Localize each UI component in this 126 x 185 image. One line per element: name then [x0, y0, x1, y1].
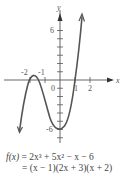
- y-tick-label: -6: [46, 125, 53, 134]
- function-factored-text: = (x − 1)(2x + 3)(x + 2): [22, 163, 112, 173]
- origin-label: 0: [51, 84, 55, 93]
- x-tick-label: 2: [88, 84, 92, 93]
- function-expanded: = 2x³ + 5x² − x − 6: [22, 152, 94, 162]
- function-factored: = (x − 1)(2x + 3)(x + 2): [22, 163, 112, 174]
- x-axis-arrow-icon: [107, 78, 114, 83]
- cubic-function-graph: x y -2 -1 1 2 0 6 -6: [0, 0, 126, 145]
- x-tick-label: -1: [38, 68, 45, 77]
- y-axis-arrow-icon: [58, 13, 63, 21]
- y-tick-label: 6: [50, 26, 54, 35]
- function-lhs: f(x): [6, 152, 19, 162]
- x-axis-label: x: [115, 76, 120, 85]
- y-axis-label: y: [56, 3, 61, 12]
- x-tick-label: -2: [21, 68, 28, 77]
- function-definition: f(x) = 2x³ + 5x² − x − 6: [6, 152, 94, 163]
